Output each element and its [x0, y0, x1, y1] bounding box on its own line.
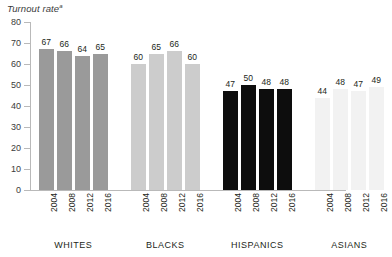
x-axis-year-label: 2004 — [234, 193, 243, 212]
bar — [241, 85, 256, 190]
x-axis-group-label: ASIANS — [295, 240, 392, 250]
bar-value-label: 60 — [127, 53, 150, 62]
bar — [315, 98, 330, 190]
y-axis-tick — [24, 43, 30, 44]
bar — [333, 89, 348, 190]
bar — [259, 89, 274, 190]
x-axis-year-label: 2008 — [344, 193, 353, 212]
bar — [149, 54, 164, 191]
y-axis-tick — [24, 148, 30, 149]
x-axis-year-label: 2016 — [380, 193, 389, 212]
y-axis-tick-label: 10 — [0, 165, 21, 174]
chart-title: Turnout ratea — [7, 3, 63, 14]
bar — [93, 54, 108, 191]
x-axis-year-label: 2004 — [326, 193, 335, 212]
bar-value-label: 48 — [273, 78, 296, 87]
y-axis-tick-label: 30 — [0, 123, 21, 132]
bar — [57, 51, 72, 190]
x-axis-year-label: 2012 — [86, 193, 95, 212]
x-axis-year-label: 2016 — [104, 193, 113, 212]
x-axis-year-label: 2008 — [68, 193, 77, 212]
chart-title-text: Turnout rate — [7, 3, 59, 14]
x-axis-year-label: 2004 — [50, 193, 59, 212]
y-axis-tick-label: 40 — [0, 102, 21, 111]
x-axis-year-label: 2004 — [142, 193, 151, 212]
bar — [223, 91, 238, 190]
x-axis-year-label: 2016 — [288, 193, 297, 212]
x-axis-year-label: 2012 — [362, 193, 371, 212]
y-axis-tick — [24, 64, 30, 65]
bar — [39, 49, 54, 190]
y-axis-tick — [24, 190, 30, 191]
y-axis-tick — [24, 22, 30, 23]
y-axis-tick — [24, 127, 30, 128]
x-axis-year-label: 2012 — [270, 193, 279, 212]
y-axis-tick-label: 50 — [0, 81, 21, 90]
y-axis-tick — [24, 85, 30, 86]
x-axis-year-label: 2012 — [178, 193, 187, 212]
y-axis-tick-label: 70 — [0, 39, 21, 48]
y-axis-tick-label: 0 — [0, 186, 21, 195]
x-axis-baseline — [24, 190, 346, 191]
bar — [185, 64, 200, 190]
bar — [277, 89, 292, 190]
y-axis-tick-label: 20 — [0, 144, 21, 153]
x-axis-year-label: 2008 — [252, 193, 261, 212]
bar-value-label: 66 — [163, 40, 186, 49]
y-axis-tick — [24, 169, 30, 170]
chart-title-footnote-marker: a — [59, 3, 62, 9]
bar — [351, 91, 366, 190]
x-axis-year-label: 2008 — [160, 193, 169, 212]
y-axis-tick — [24, 106, 30, 107]
bar-value-label: 65 — [89, 43, 112, 52]
bar — [131, 64, 146, 190]
bar-value-label: 60 — [181, 53, 204, 62]
y-axis-tick-label: 60 — [0, 60, 21, 69]
bar-value-label: 49 — [365, 76, 388, 85]
x-axis-year-label: 2016 — [196, 193, 205, 212]
bar — [75, 56, 90, 190]
y-axis-tick-label: 80 — [0, 18, 21, 27]
bar — [369, 87, 384, 190]
y-axis-line — [30, 22, 31, 190]
bar — [167, 51, 182, 190]
bar-value-label: 44 — [311, 87, 334, 96]
